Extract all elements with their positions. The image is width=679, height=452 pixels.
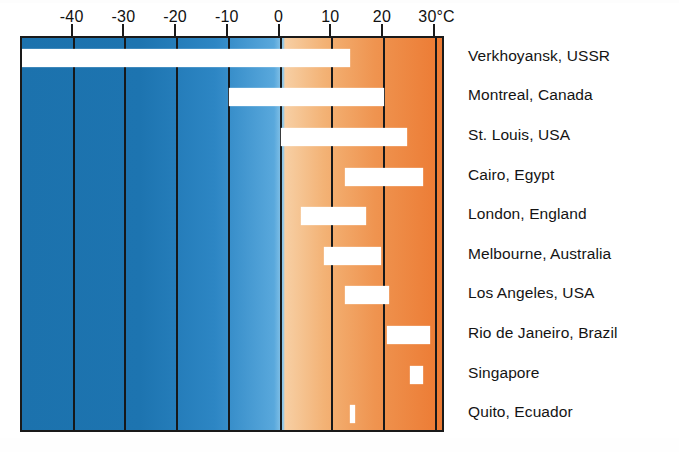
range-bar [387, 326, 431, 344]
bar-series [22, 38, 442, 430]
city-label: Quito, Ecuador [468, 403, 573, 421]
x-tick-mark-30 [433, 24, 435, 36]
page-bottom-margin [0, 438, 679, 452]
range-bar [22, 49, 350, 67]
city-label: Los Angeles, USA [468, 284, 595, 302]
city-label: Montreal, Canada [468, 86, 593, 104]
plot-area [20, 36, 444, 432]
x-tick-mark--10 [226, 24, 228, 36]
city-label: Verkhoyansk, USSR [468, 47, 610, 65]
x-tick-mark-20 [381, 24, 383, 36]
x-axis: -40-30-20-100102030°C [20, 0, 444, 36]
city-label: St. Louis, USA [468, 126, 570, 144]
city-label: Singapore [468, 364, 540, 382]
range-bar [345, 286, 389, 304]
city-label: Melbourne, Australia [468, 245, 611, 263]
range-bar [301, 207, 366, 225]
city-label: Cairo, Egypt [468, 166, 555, 184]
x-tick-mark--20 [174, 24, 176, 36]
range-bar [229, 88, 384, 106]
range-bar [410, 366, 423, 384]
x-tick-mark-0 [278, 24, 280, 36]
range-bar [324, 247, 381, 265]
range-bar [281, 128, 408, 146]
temperature-range-chart: -40-30-20-100102030°C Verkhoyansk, USSRM… [0, 0, 679, 452]
x-tick-mark--40 [71, 24, 73, 36]
range-bar [350, 405, 355, 423]
x-tick-label-30: 30°C [418, 8, 455, 26]
category-labels: Verkhoyansk, USSRMontreal, CanadaSt. Lou… [452, 36, 679, 432]
x-tick-mark-10 [329, 24, 331, 36]
city-label: London, England [468, 205, 587, 223]
x-tick-mark--30 [122, 24, 124, 36]
city-label: Rio de Janeiro, Brazil [468, 324, 618, 342]
range-bar [345, 168, 423, 186]
